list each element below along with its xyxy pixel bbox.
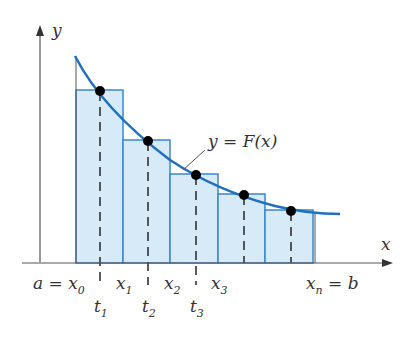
rectangle-2 bbox=[123, 140, 170, 263]
xn-label: xn = b bbox=[306, 273, 359, 297]
rectangle-3 bbox=[170, 174, 218, 263]
t3-label: t3 bbox=[190, 296, 204, 320]
point-t2 bbox=[143, 136, 153, 146]
x3-label: x3 bbox=[211, 273, 228, 297]
x2-label: x2 bbox=[164, 273, 181, 297]
t1-label: t1 bbox=[94, 296, 108, 320]
curve-label: y = F(x) bbox=[207, 131, 277, 151]
rectangle-5 bbox=[265, 210, 313, 263]
x-axis-label: x bbox=[381, 234, 391, 254]
y-axis-arrow-icon bbox=[36, 25, 44, 36]
point-t1 bbox=[95, 86, 105, 96]
riemann-sum-figure: y x y = F(x) a = x0 x1 x2 x3 xn = b t1 t… bbox=[0, 0, 419, 341]
x1-label: x1 bbox=[116, 273, 133, 297]
t2-label: t2 bbox=[142, 296, 156, 320]
point-t5 bbox=[286, 206, 296, 216]
curve-label-leader bbox=[183, 150, 205, 170]
rectangle-4 bbox=[218, 194, 265, 263]
x-axis-arrow-icon bbox=[382, 259, 393, 267]
point-t4 bbox=[239, 190, 249, 200]
point-t3 bbox=[191, 170, 201, 180]
x0-label: a = x0 bbox=[33, 273, 85, 297]
y-axis-label: y bbox=[51, 20, 62, 40]
